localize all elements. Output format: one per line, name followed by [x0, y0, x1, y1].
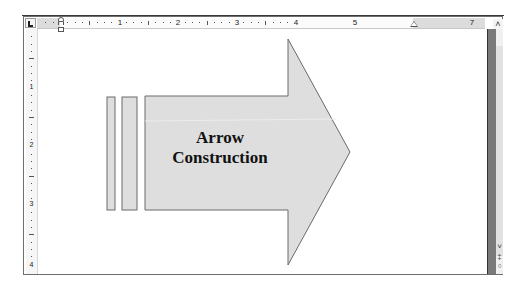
ruler-tick	[31, 73, 32, 74]
ruler-number: 4	[292, 18, 300, 28]
ruler-tick	[82, 22, 83, 23]
ruler-number: 4	[27, 261, 36, 269]
scroll-thumb[interactable]	[496, 46, 503, 256]
ruler-tick	[31, 256, 32, 257]
ruler-tick	[31, 66, 32, 67]
ruler-tick	[31, 124, 32, 125]
ruler-tick	[104, 22, 105, 23]
right-indent-marker[interactable]	[410, 21, 418, 27]
ruler-tick	[148, 21, 149, 25]
ruler-tick	[45, 22, 46, 23]
ruler-tick	[31, 36, 32, 37]
ruler-tick	[75, 22, 76, 23]
ruler-number: 3	[233, 18, 241, 28]
arrow-stripe-wide[interactable]	[122, 97, 137, 210]
ruler-tick	[31, 227, 32, 228]
scroll-down-button[interactable]: ˅	[496, 242, 503, 251]
previous-page-button[interactable]: ‡	[496, 253, 503, 261]
ruler-tick	[229, 22, 230, 23]
ruler-tick	[287, 22, 288, 23]
hanging-indent-marker[interactable]	[58, 22, 64, 25]
ruler-number: 1	[27, 83, 36, 91]
arrow-label-line2: Construction	[150, 148, 290, 168]
ruler-tick	[31, 110, 32, 111]
left-indent-marker[interactable]	[58, 27, 64, 32]
arrow-label-line1: Arrow	[150, 128, 290, 148]
ruler-tick	[280, 22, 281, 23]
ruler-tick	[192, 22, 193, 23]
ruler-tick	[31, 242, 32, 243]
vertical-ruler[interactable]: 1 2 3 4	[26, 29, 38, 274]
ruler-number: 5	[351, 18, 359, 28]
ruler-tick	[31, 139, 32, 140]
ruler-tick	[163, 22, 164, 23]
ruler-tick	[31, 198, 32, 199]
ruler-tick	[141, 22, 142, 23]
ruler-tick	[31, 95, 32, 96]
ruler-tick	[29, 117, 34, 118]
ruler-tick	[31, 102, 32, 103]
ruler-tick	[31, 80, 32, 81]
vertical-scrollbar[interactable]: ˅ ‡ ○	[487, 29, 503, 274]
ruler-tick	[89, 21, 90, 25]
ruler-tick	[243, 22, 244, 23]
ruler-number: 1	[116, 18, 124, 28]
ruler-tick	[31, 51, 32, 52]
ruler-tick	[214, 22, 215, 23]
ruler-tick	[53, 22, 54, 23]
ruler-tick	[155, 22, 156, 23]
ruler-number: 7	[468, 18, 476, 28]
ruler-tick	[31, 154, 32, 155]
ruler-tick	[31, 190, 32, 191]
ruler-tick	[185, 22, 186, 23]
ruler-tick	[31, 132, 32, 133]
ruler-tick	[111, 22, 112, 23]
scroll-track[interactable]	[487, 29, 496, 274]
select-browse-object-button[interactable]: ○	[496, 262, 503, 270]
ruler-tick	[251, 22, 252, 23]
ruler-tick	[133, 22, 134, 23]
ruler-tick	[31, 212, 32, 213]
ruler-tick	[31, 183, 32, 184]
ruler-tick	[31, 168, 32, 169]
ruler-tick	[31, 161, 32, 162]
arrow-stripe-narrow[interactable]	[107, 97, 115, 210]
arrow-text-box[interactable]: Arrow Construction	[150, 128, 290, 168]
ruler-tick	[97, 22, 98, 23]
ruler-tick	[29, 58, 34, 59]
ruler-number: 3	[27, 200, 36, 208]
ruler-tick	[265, 21, 266, 25]
ruler-tick	[258, 22, 259, 23]
ruler-tick	[67, 22, 68, 23]
ruler-number: 2	[27, 141, 36, 149]
ruler-tick	[170, 22, 171, 23]
tab-selector-button[interactable]	[25, 18, 36, 28]
ruler-tick	[207, 21, 208, 25]
ruler-tick	[31, 44, 32, 45]
ruler-tick	[273, 22, 274, 23]
ruler-number: 2	[174, 18, 182, 28]
ruler-tick	[31, 249, 32, 250]
scroll-up-button[interactable]: ˄	[493, 19, 503, 29]
ruler-tick	[199, 22, 200, 23]
ruler-tick	[126, 22, 127, 23]
ruler-tick	[221, 22, 222, 23]
ruler-tick	[29, 176, 34, 177]
ruler-tick	[31, 220, 32, 221]
ruler-tick	[29, 234, 34, 235]
